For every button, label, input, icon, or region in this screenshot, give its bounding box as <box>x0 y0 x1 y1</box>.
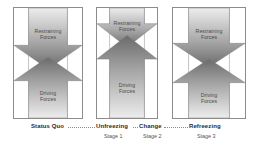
driving-arrow-1 <box>14 57 82 118</box>
panel-status-quo-graphic <box>14 8 82 118</box>
force-field-diagram: Restraining Forces Driving Forces <box>0 0 260 151</box>
timeline-connector-1 <box>68 127 95 129</box>
driving-arrow-3 <box>173 59 245 118</box>
stage-number-1: Stage 1 <box>104 133 123 139</box>
panel-refreezing-graphic <box>173 8 245 118</box>
restraining-arrow-3 <box>173 8 245 67</box>
stage-number-2: Stage 2 <box>143 133 162 139</box>
panel-refreezing: Restraining Forces Driving Forces <box>172 7 246 119</box>
stage-label-status-quo: Status Quo <box>31 123 64 129</box>
stage-label-unfreezing: Unfreezing <box>96 123 128 129</box>
stage-label-refreezing: Refreezing <box>189 123 221 129</box>
panel-status-quo: Restraining Forces Driving Forces <box>13 7 83 119</box>
panels-area: Restraining Forces Driving Forces <box>0 0 260 120</box>
driving-arrow-2 <box>97 36 157 119</box>
panel-change-graphic <box>97 8 157 118</box>
stage-number-3: Stage 3 <box>197 133 216 139</box>
timeline-connector-2 <box>133 127 138 129</box>
stage-timeline: Status Quo Unfreezing Stage 1 Change Sta… <box>0 120 260 151</box>
panel-change: Restraining Forces Driving Forces <box>96 7 158 119</box>
stage-label-change: Change <box>139 123 162 129</box>
timeline-connector-3 <box>164 127 188 129</box>
